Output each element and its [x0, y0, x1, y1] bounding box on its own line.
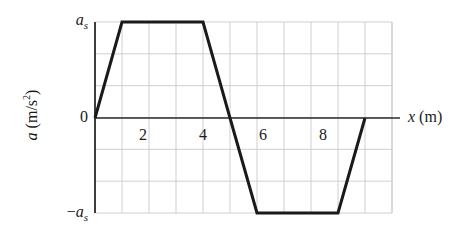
y-axis-label-unit-close: ): [23, 90, 40, 95]
x-axis-label: x (m): [408, 108, 442, 126]
x-tick-label-8: 8: [313, 126, 333, 144]
y-axis-label-variable: a: [23, 132, 40, 140]
x-axis-label-unit: (m): [415, 108, 442, 125]
y-axis-label-text: a (m/s2): [21, 90, 40, 141]
y-axis-label-unit-open: (m/s: [23, 100, 40, 132]
x-tick-label-2: 2: [133, 126, 153, 144]
y-axis-label-unit-exponent: 2: [21, 95, 32, 100]
x-tick-label-4: 4: [193, 126, 213, 144]
y-tick-top-variable: a: [76, 11, 84, 28]
y-tick-top-subscript: s: [84, 19, 88, 31]
y-tick-label-negative-as: −as: [36, 203, 88, 223]
y-tick-label-positive-as: as: [52, 11, 88, 31]
y-tick-bottom-minus: −: [67, 203, 76, 220]
x-tick-label-6: 6: [253, 126, 273, 144]
y-tick-bottom-variable: a: [76, 203, 84, 220]
y-tick-bottom-subscript: s: [84, 211, 88, 223]
y-axis-label: a (m/s2): [18, 60, 44, 170]
y-tick-label-zero: 0: [56, 108, 88, 126]
acceleration-vs-position-chart: a (m/s2) as 0 −as 2 4 6 8 x (m): [0, 0, 469, 235]
